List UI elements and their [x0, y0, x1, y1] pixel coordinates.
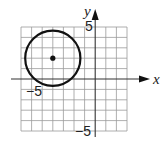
y-tick-label-5: 5: [85, 18, 93, 34]
coordinate-plane: x y 5 −5 −5: [0, 0, 165, 146]
y-axis-label: y: [82, 3, 91, 19]
x-tick-label-neg5: −5: [26, 83, 42, 99]
x-axis-label: x: [152, 71, 160, 87]
x-axis-arrow-icon: [139, 76, 150, 83]
y-tick-label-neg5: −5: [75, 123, 91, 139]
center-point: [50, 56, 55, 61]
